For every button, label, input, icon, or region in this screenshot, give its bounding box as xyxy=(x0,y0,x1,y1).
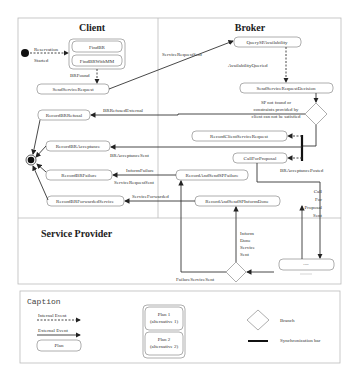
plan-record-br-refusal-label: RecordBRRefusal xyxy=(46,113,83,118)
event-cfp-1: Call xyxy=(314,189,323,194)
event-cfp-2: For xyxy=(315,197,322,202)
plan-record-send-sp-failure-label: RecordAndSendSPFailure xyxy=(186,173,240,178)
branch-diamond-broker xyxy=(305,103,327,125)
caption-plan1-a: Plan 1 xyxy=(158,312,171,317)
lane-title-client: Client xyxy=(79,22,106,33)
plan-record-client-service-request-label: RecordClientServiceRequest xyxy=(210,134,268,139)
event-cfp-4: Sent xyxy=(313,213,323,218)
plan-query-sp-label: QuerySPAvailability xyxy=(246,40,288,45)
plan-findbr-mm-label: FindBRWithMM xyxy=(80,59,115,64)
event-inform-2: Done xyxy=(240,238,252,243)
event-service-request-sent-2: ServiceRequestSent xyxy=(114,180,155,185)
caption-plan-label: Plan xyxy=(55,343,64,348)
event-reservation: Reservation xyxy=(34,47,58,52)
plan-record-br-acceptance-label: RecordBRAcceptance xyxy=(56,144,101,149)
caption-internal-event: Internal Event xyxy=(38,313,67,318)
event-br-acceptance-sent: BRAcceptanceSent xyxy=(110,153,149,158)
plan-send-service-request-decision-label: SendServiceRequestDecision xyxy=(257,86,316,91)
plan-service-provider-label: ---- xyxy=(303,262,309,267)
branch-diamond-sp xyxy=(226,262,246,282)
plan-send-service-request-label: SendServiceRequest xyxy=(52,87,94,92)
caption-sync-bar-label: Synchronization bar xyxy=(280,338,321,343)
caption-external-event: External Event xyxy=(38,328,68,333)
event-availability-queried: AvailabilityQueried xyxy=(228,63,268,68)
event-inform-4: Sent xyxy=(240,252,250,257)
plan-findbr-label: FindBR xyxy=(89,45,106,50)
event-inform-3: Service xyxy=(240,245,256,250)
caption-branch-diamond xyxy=(247,310,269,330)
event-sp-not-found-1: SP not found or xyxy=(261,100,291,105)
plan-record-br-failure-label: RecordBRFailure xyxy=(61,173,97,178)
event-inform-failure: InformFailure xyxy=(126,168,155,173)
lane-title-broker: Broker xyxy=(235,22,266,33)
event-failure-service-sent: FailureServiceSent xyxy=(176,277,215,282)
event-sp-not-found-3: client can not be satisfied xyxy=(252,114,301,119)
event-service-request-sent: ServiceRequestSent xyxy=(162,52,203,57)
caption-plan2-a: Plan 2 xyxy=(158,337,171,342)
event-started: Started xyxy=(34,58,49,63)
plan-record-send-sp-inform-done-label: RecordAndSendSPInformDone xyxy=(205,199,269,204)
plan-record-br-forwarded-service-label: RecordBRForwardedService xyxy=(56,199,115,204)
agent-interaction-diagram: Client Broker Service Provider Reservati… xyxy=(0,0,358,375)
caption-branch-label: Branch xyxy=(280,318,295,323)
lane-title-service-provider: Service Provider xyxy=(41,228,113,239)
event-cfp-3: Proposal xyxy=(305,205,323,210)
start-node xyxy=(21,49,29,57)
caption-title: Caption xyxy=(27,297,61,306)
caption-plan1-b: (alternative 1) xyxy=(150,319,179,324)
event-inform-1: Inform xyxy=(240,231,254,236)
caption-plan2-b: (alternative 2) xyxy=(150,344,179,349)
plan-call-for-proposal-label: CallForProposal xyxy=(244,156,277,161)
event-br-acceptance-posted: BRAcceptancePosted xyxy=(280,168,324,173)
event-sp-not-found-2: constraints provided by xyxy=(253,107,299,112)
event-service-forwarded: ServiceForwarded xyxy=(132,194,169,199)
event-br-refused-external: BRRefusedExternal xyxy=(103,108,144,113)
event-br-found: BRFound xyxy=(70,73,90,78)
